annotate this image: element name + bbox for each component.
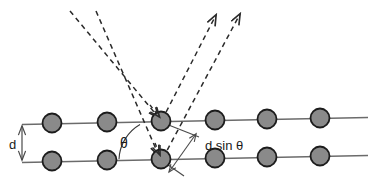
atom — [206, 149, 225, 168]
atom — [258, 110, 277, 129]
theta-group: θ — [119, 125, 140, 160]
atom-scattering-lower — [152, 150, 171, 169]
atom — [98, 113, 117, 132]
atom — [98, 151, 117, 170]
theta-label: θ — [120, 135, 128, 151]
atom — [258, 148, 277, 167]
scattered-ray-2 — [163, 14, 240, 158]
atom — [311, 147, 330, 166]
scattered-rays — [162, 14, 240, 158]
scattered-ray-1 — [162, 15, 216, 120]
path-difference-group: d sin θ — [161, 122, 243, 176]
d-label: d — [9, 137, 16, 152]
atom-scattering-upper — [152, 112, 171, 131]
incident-ray-1 — [70, 11, 159, 118]
d-dimension-group: d — [9, 126, 22, 160]
atom — [43, 152, 62, 171]
atom — [311, 109, 330, 128]
incident-rays — [70, 11, 159, 156]
bragg-diffraction-figure: d θ d sin θ — [0, 0, 372, 181]
bragg-diagram-canvas: d θ d sin θ — [0, 0, 372, 181]
atom — [206, 111, 225, 130]
atom — [43, 114, 62, 133]
